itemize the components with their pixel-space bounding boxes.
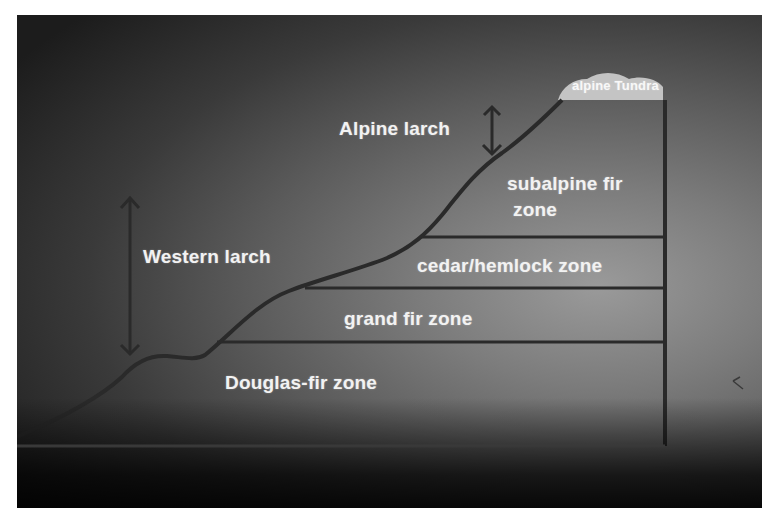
subalpine-fir-zone-label-line1: subalpine fir: [507, 173, 623, 195]
western-larch-label: Western larch: [143, 246, 271, 268]
alpine-tundra-label: alpine Tundra: [572, 78, 659, 93]
alpine-larch-range-arrow: [483, 107, 501, 154]
cedar-hemlock-zone-label: cedar/hemlock zone: [417, 255, 602, 277]
grand-fir-zone-label: grand fir zone: [344, 308, 472, 330]
pointer-mark: [733, 377, 743, 389]
subalpine-fir-zone-label-line2: zone: [513, 199, 557, 221]
diagram-frame: alpine Tundra Alpine larch subalpine fir…: [17, 15, 762, 508]
western-larch-range-arrow: [121, 198, 139, 354]
alpine-larch-label: Alpine larch: [339, 118, 450, 140]
douglas-fir-zone-label: Douglas-fir zone: [225, 372, 377, 394]
